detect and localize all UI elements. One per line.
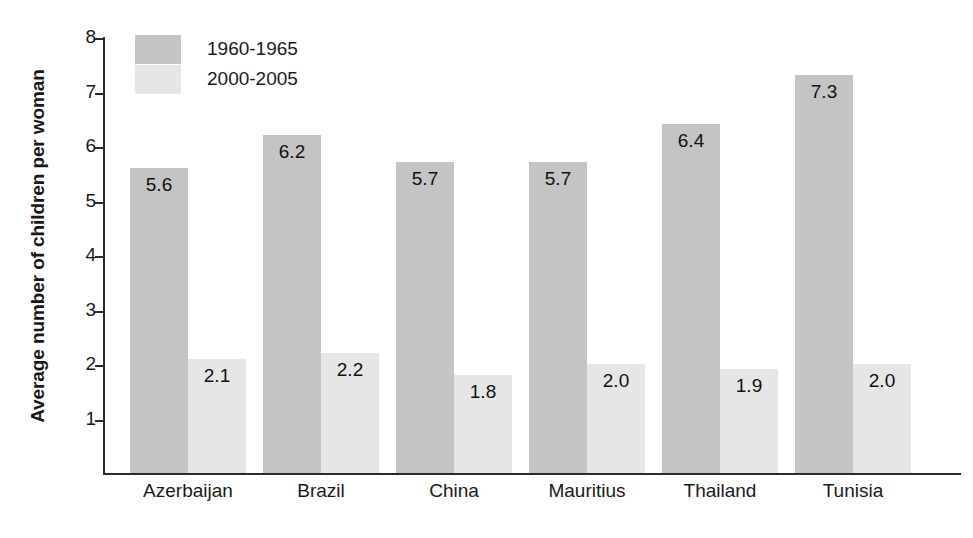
bar: 2.0 [853,364,911,473]
bar-value-label: 2.0 [853,370,911,391]
bar-value-label: 2.0 [587,370,645,391]
bar-group: 6.41.9 [662,124,778,473]
y-axis-tick-label: 4 [85,245,96,265]
x-axis-category-labels: AzerbaijanBrazilChinaMauritiusThailandTu… [103,479,961,509]
y-axis-tick-label: 2 [85,354,96,374]
bar-value-label: 2.2 [321,359,379,380]
y-axis-tick-label: 6 [85,136,96,156]
bar-value-label: 5.7 [396,168,454,189]
bars-layer: 5.62.16.22.25.71.85.72.06.41.97.32.0 [103,34,961,474]
bar-group: 6.22.2 [263,135,379,473]
bar-value-label: 6.2 [263,141,321,162]
bar: 6.4 [662,124,720,473]
bar-value-label: 1.9 [720,375,778,396]
bar-group: 7.32.0 [795,75,911,473]
bar: 7.3 [795,75,853,473]
bar: 2.2 [321,353,379,473]
y-axis-title: Average number of children per woman [10,6,66,486]
bar-value-label: 5.6 [130,174,188,195]
bar-value-label: 6.4 [662,130,720,151]
y-axis-tick-label: 7 [85,82,96,102]
chart-screenshot: Average number of children per woman 876… [0,0,973,538]
bar-value-label: 1.8 [454,381,512,402]
bar-value-label: 2.1 [188,365,246,386]
x-axis-category-label: Tunisia [765,479,941,503]
y-axis-tick-label: 8 [85,27,96,47]
bar-value-label: 5.7 [529,168,587,189]
bar: 1.8 [454,375,512,473]
bar: 2.1 [188,359,246,473]
bar-group: 5.71.8 [396,162,512,473]
bar: 2.0 [587,364,645,473]
y-axis-tick-label: 5 [85,191,96,211]
y-axis-tick-label: 1 [85,409,96,429]
bar-group: 5.72.0 [529,162,645,473]
bar: 6.2 [263,135,321,473]
bar-group: 5.62.1 [130,168,246,473]
plot-area: 87654321 1960-1965 2000-2005 5.62.16.22.… [103,34,961,476]
bar: 5.6 [130,168,188,473]
bar: 1.9 [720,369,778,473]
bar: 5.7 [396,162,454,473]
bar: 5.7 [529,162,587,473]
bar-value-label: 7.3 [795,81,853,102]
y-axis-tick-label: 3 [85,300,96,320]
